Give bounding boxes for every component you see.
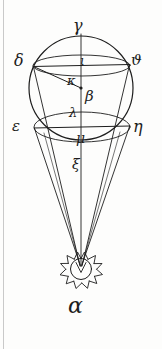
sun-rays (60, 252, 103, 289)
sun-symbol (60, 252, 103, 289)
label-mu: μ (76, 131, 85, 145)
label-xi: ξ (72, 157, 80, 171)
label-beta: β (85, 89, 94, 104)
diagram-page: γ δ ϑ ε η ι κ β λ μ ξ α (0, 0, 162, 349)
center-point-beta-dot (79, 86, 82, 89)
label-epsilon: ε (12, 119, 20, 134)
label-theta: ϑ (131, 53, 142, 68)
label-iota: ι (80, 55, 85, 67)
label-alpha: α (68, 295, 83, 317)
label-eta: η (133, 119, 143, 135)
cone-line-eta-apex (82, 127, 130, 267)
label-gamma: γ (73, 18, 83, 34)
label-delta: δ (14, 53, 24, 69)
cone-line-epsilon-apex (35, 129, 81, 267)
cone-inner-left-stroke (44, 133, 80, 265)
label-kappa: κ (67, 74, 76, 87)
label-lambda: λ (69, 106, 77, 119)
cone-inner-right-stroke (82, 132, 120, 265)
